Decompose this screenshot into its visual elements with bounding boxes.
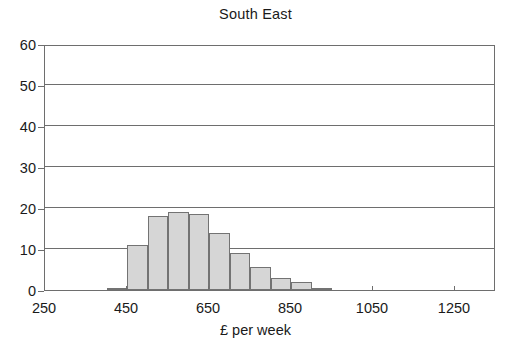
gridline [45, 84, 494, 85]
y-axis-tick-mark [38, 127, 44, 128]
x-axis-tick-label: 450 [96, 301, 156, 316]
x-axis-tick-label: 250 [14, 301, 74, 316]
y-axis-tick-mark [38, 291, 44, 292]
histogram-chart: South East 0102030405060 250450650850105… [0, 0, 511, 361]
y-axis-tick-mark [38, 168, 44, 169]
histogram-bar [271, 278, 292, 290]
y-axis-tick-mark [38, 45, 44, 46]
gridline [45, 248, 494, 249]
gridline [45, 125, 494, 126]
y-axis-tick-mark [38, 86, 44, 87]
y-axis-tick-label: 20 [2, 202, 36, 217]
y-axis-tick-label: 0 [2, 284, 36, 299]
x-axis-tick-label: 1250 [424, 301, 484, 316]
y-axis-tick-label: 50 [2, 79, 36, 94]
x-axis-tick-mark [372, 286, 373, 291]
gridline [45, 166, 494, 167]
x-axis-tick-mark [290, 286, 291, 291]
histogram-bar [127, 245, 148, 290]
histogram-bar [250, 267, 271, 290]
x-axis-tick-mark [44, 286, 45, 291]
x-axis-tick-label: 1050 [342, 301, 402, 316]
y-axis-tick-label: 40 [2, 120, 36, 135]
histogram-bar [230, 253, 251, 290]
histogram-bar [148, 216, 169, 290]
y-axis-tick-mark [38, 250, 44, 251]
x-axis-tick-label: 650 [178, 301, 238, 316]
histogram-bar [209, 233, 230, 290]
x-axis-tick-mark [126, 286, 127, 291]
plot-area [44, 45, 495, 291]
histogram-bar [107, 288, 128, 290]
y-axis-tick-mark [38, 209, 44, 210]
chart-title: South East [0, 6, 511, 22]
histogram-bar [291, 282, 312, 290]
x-axis-tick-mark [208, 286, 209, 291]
x-axis-title: £ per week [0, 322, 511, 338]
histogram-bar [312, 288, 333, 290]
x-axis-tick-mark [454, 286, 455, 291]
y-axis-tick-label: 10 [2, 243, 36, 258]
y-axis-tick-label: 30 [2, 161, 36, 176]
x-axis-tick-label: 850 [260, 301, 320, 316]
histogram-bar [189, 214, 210, 290]
histogram-bar [168, 212, 189, 290]
gridline [45, 207, 494, 208]
y-axis-tick-label: 60 [2, 38, 36, 53]
